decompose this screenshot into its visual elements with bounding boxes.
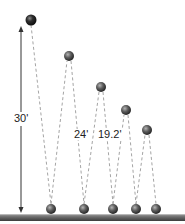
trajectory-fall-2 [103,92,113,204]
ground-ball-4 [131,204,141,214]
peak-ball-1 [64,51,74,61]
trajectory-rise-1 [51,61,67,204]
trajectory-drop [31,25,51,204]
peak-ball-4 [142,125,152,135]
trajectory-rise-2 [84,92,99,204]
bounce-height-label-1: 24' [73,129,89,140]
initial-height-label: 30' [14,113,28,124]
bounce-height-label-2: 19.2' [97,129,123,140]
arrow-down-icon [19,207,24,213]
trajectory-rise-4 [136,135,145,204]
peak-ball-3 [121,105,131,115]
ground-ball-3 [108,204,118,214]
ground-surface [0,214,185,221]
ground-ball-2 [79,204,89,214]
arrow-up-icon [19,26,24,32]
start-ball [26,15,37,26]
trajectory-fall-3 [128,115,136,204]
peak-ball-2 [96,82,106,92]
ground-ball-1 [46,204,56,214]
trajectory-fall-4 [149,135,156,204]
trajectory-lines [31,25,156,204]
ground-ball-5 [151,204,161,214]
